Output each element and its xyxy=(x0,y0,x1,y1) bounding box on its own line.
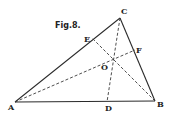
label-a: A xyxy=(7,102,15,112)
cevian-af xyxy=(15,50,135,102)
side-ab xyxy=(15,101,155,102)
figure-title: Fig.8. xyxy=(55,21,81,30)
label-e: E xyxy=(84,34,90,44)
cevian-cd xyxy=(107,18,120,102)
triangle-diagram: Fig.8. C E F O A D B xyxy=(0,0,173,118)
label-c: C xyxy=(121,6,127,16)
side-bc xyxy=(120,18,155,101)
side-ca xyxy=(15,18,120,102)
label-d: D xyxy=(105,103,112,113)
label-f: F xyxy=(136,45,142,55)
label-b: B xyxy=(157,99,164,109)
label-o: O xyxy=(101,62,108,72)
